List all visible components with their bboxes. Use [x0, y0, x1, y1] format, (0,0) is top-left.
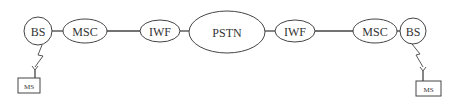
msc-right-label: MSC	[362, 25, 387, 39]
network-diagram: BS MSC IWF PSTN IWF MSC BS MS MS	[0, 0, 457, 101]
ms-right-label: MS	[423, 86, 433, 94]
antenna-right-icon	[420, 67, 426, 71]
msc-left-label: MSC	[72, 25, 97, 39]
pstn-label: PSTN	[212, 26, 242, 40]
iwf-left-label: IWF	[149, 25, 171, 39]
wireless-link-right-icon	[412, 44, 423, 67]
iwf-right-label: IWF	[284, 25, 306, 39]
ms-left-label: MS	[24, 83, 34, 91]
wireless-link-left-icon	[35, 45, 43, 67]
bs-left-label: BS	[31, 25, 46, 39]
bs-right-label: BS	[406, 25, 421, 39]
